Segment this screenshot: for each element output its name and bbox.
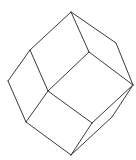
edge-upper_left-center — [30, 50, 48, 91]
polyhedron-wireframe — [0, 0, 136, 160]
edge-upper_left-left — [8, 50, 30, 81]
edge-inner_top-center — [48, 52, 89, 91]
edge-center-inner_bottom — [48, 91, 92, 123]
edge-left-lower_left — [8, 81, 26, 122]
edge-inner_bottom-right — [92, 85, 133, 123]
edge-lower_left-bottom — [26, 122, 71, 155]
edge-center-lower_left — [26, 91, 48, 122]
polyhedron-diagram — [0, 0, 136, 160]
edge-top-upper_left — [30, 12, 71, 50]
